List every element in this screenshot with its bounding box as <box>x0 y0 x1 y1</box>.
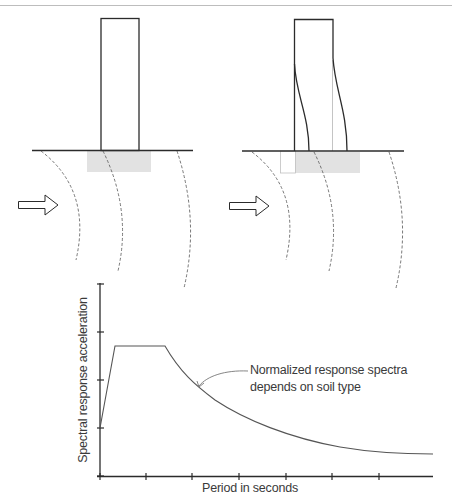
annotation-leader <box>199 371 248 386</box>
building <box>101 19 139 151</box>
ground-motion-arrow-icon <box>230 196 270 216</box>
spectrum-annotation: Normalized response spectra depends on s… <box>250 362 407 396</box>
deformed-building-right-edge <box>295 20 348 152</box>
foundation-shifted <box>295 152 360 173</box>
x-axis-label: Period in seconds <box>202 481 298 495</box>
annotation-line-2: depends on soil type <box>250 379 407 396</box>
foundation-ghost <box>281 151 296 173</box>
panel-undeformed <box>19 19 194 289</box>
ground-motion-arrow-icon <box>19 195 59 215</box>
foundation-block <box>87 151 151 172</box>
annotation-line-1: Normalized response spectra <box>250 362 407 379</box>
panel-deformed <box>230 20 405 289</box>
diagram-canvas <box>0 0 452 502</box>
seismic-wave <box>389 152 403 288</box>
y-axis-label: Spectral response acceleration <box>76 297 90 463</box>
seismic-wave <box>177 151 191 288</box>
deformed-building-left-edge <box>295 64 310 151</box>
